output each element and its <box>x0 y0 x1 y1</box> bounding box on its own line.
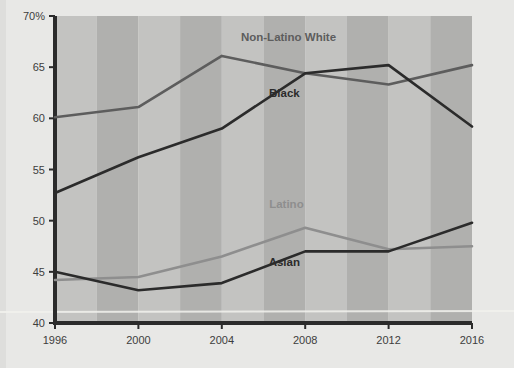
y-axis-tick-label: 55 <box>33 164 45 176</box>
plot-band <box>138 16 180 323</box>
background-highlight-rule <box>0 311 514 312</box>
plot-band <box>180 16 222 323</box>
plot-band <box>264 16 306 323</box>
x-axis: 199620002004200820122016 <box>43 323 484 346</box>
series-label: Asian <box>269 256 300 268</box>
series-label: Latino <box>269 198 304 210</box>
x-axis-tick-label: 2012 <box>376 334 400 346</box>
plot-band <box>305 16 347 323</box>
series-label: Black <box>269 87 300 99</box>
line-chart: 40455055606570%199620002004200820122016N… <box>0 0 514 368</box>
y-axis-tick-label: 65 <box>33 61 45 73</box>
x-axis-tick-label: 1996 <box>43 334 67 346</box>
x-axis-tick-label: 2008 <box>293 334 317 346</box>
plot-band <box>347 16 389 323</box>
y-axis-tick-label: 45 <box>33 266 45 278</box>
y-axis: 40455055606570% <box>23 10 55 329</box>
chart-container: 40455055606570%199620002004200820122016N… <box>0 0 514 368</box>
x-axis-tick-label: 2000 <box>126 334 150 346</box>
y-axis-tick-label: 40 <box>33 317 45 329</box>
series-label: Non-Latino White <box>241 31 336 43</box>
x-axis-tick-label: 2004 <box>210 334 234 346</box>
plot-band <box>430 16 472 323</box>
y-axis-tick-label: 50 <box>33 215 45 227</box>
x-axis-tick-label: 2016 <box>460 334 484 346</box>
y-axis-tick-label: 60 <box>33 112 45 124</box>
plot-band <box>389 16 431 323</box>
y-axis-tick-label: 70% <box>23 10 45 22</box>
